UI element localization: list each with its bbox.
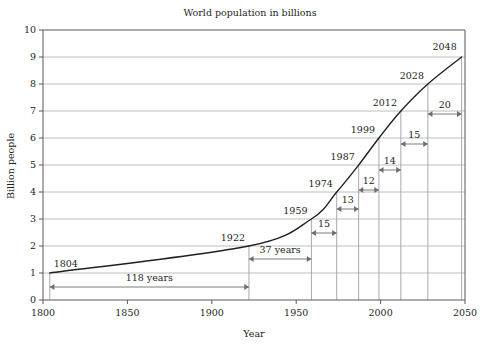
y-tick-label-6: 6: [30, 132, 36, 143]
x-tick-label-1950: 1950: [284, 307, 308, 318]
x-tick-label-1900: 1900: [200, 307, 224, 318]
y-tick-labels: 012345678910: [24, 24, 36, 305]
y-tick-label-7: 7: [30, 105, 36, 116]
interval-1959-1974-label: 15: [318, 218, 330, 229]
interval-1959-1974-head-left: [311, 230, 316, 236]
interval-labels: 118 years37 years151312141520: [126, 99, 451, 283]
interval-1999-2012-label: 14: [384, 155, 396, 166]
y-tick-label-3: 3: [30, 213, 36, 224]
x-axis-title: Year: [242, 328, 265, 339]
interval-1999-2012-head-left: [379, 167, 384, 173]
interval-2028-2048-label: 20: [439, 99, 451, 110]
chart-title: World population in billions: [183, 7, 316, 18]
y-tick-label-8: 8: [30, 78, 36, 89]
milestone-label-2012: 2012: [373, 97, 397, 108]
interval-2012-2028-label: 15: [408, 129, 420, 140]
interval-1974-1987-head-right: [354, 206, 359, 212]
gridlines: [43, 30, 465, 273]
y-tick-label-9: 9: [30, 51, 36, 62]
interval-2012-2028-head-left: [401, 141, 406, 147]
y-axis-title: Billion people: [5, 133, 16, 200]
x-tick-labels: 180018501900195020002050: [31, 307, 477, 318]
milestone-label-2048: 2048: [433, 41, 457, 52]
interval-1987-1999-label: 12: [363, 175, 375, 186]
x-tick-label-2000: 2000: [369, 307, 393, 318]
interval-1804-1922-head-right: [244, 284, 249, 290]
y-tick-label-1: 1: [30, 267, 36, 278]
y-tick-label-10: 10: [24, 24, 36, 35]
milestone-drop-lines: [50, 57, 462, 300]
chart-canvas: 012345678910 180018501900195020002050 18…: [0, 0, 497, 346]
interval-1974-1987-label: 13: [342, 194, 354, 205]
interval-2012-2028-head-right: [423, 141, 428, 147]
x-tick-label-1850: 1850: [115, 307, 139, 318]
interval-1804-1922-head-left: [50, 284, 55, 290]
x-tick-label-2050: 2050: [453, 307, 477, 318]
milestone-label-1974: 1974: [309, 178, 333, 189]
milestone-year-labels: 180419221959197419871999201220282048: [54, 41, 457, 269]
interval-2028-2048-head-right: [457, 111, 462, 117]
y-tick-label-2: 2: [30, 240, 36, 251]
y-tick-label-5: 5: [30, 159, 36, 170]
interval-2028-2048-head-left: [428, 111, 433, 117]
milestone-label-2028: 2028: [400, 70, 424, 81]
interval-1922-1959-label: 37 years: [260, 244, 301, 255]
milestone-label-1999: 1999: [351, 124, 375, 135]
milestone-label-1804: 1804: [54, 258, 78, 269]
interval-1922-1959-head-left: [249, 256, 254, 262]
interval-1922-1959-head-right: [307, 256, 312, 262]
milestone-label-1922: 1922: [221, 232, 245, 243]
milestone-label-1959: 1959: [283, 205, 307, 216]
y-tick-label-4: 4: [30, 186, 36, 197]
x-tick-label-1800: 1800: [31, 307, 55, 318]
interval-1999-2012-head-right: [396, 167, 401, 173]
population-chart: 012345678910 180018501900195020002050 18…: [0, 0, 497, 346]
milestone-label-1987: 1987: [331, 151, 355, 162]
interval-1804-1922-label: 118 years: [126, 272, 173, 283]
interval-1959-1974-head-right: [332, 230, 337, 236]
y-tick-label-0: 0: [30, 294, 36, 305]
interval-1974-1987-head-left: [337, 206, 342, 212]
